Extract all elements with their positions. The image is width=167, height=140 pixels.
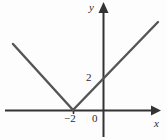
origin-label: 0 [92, 113, 98, 124]
y-axis-label: y [89, 2, 94, 13]
curve-right-branch [73, 22, 158, 110]
x-axis-arrowhead [151, 106, 161, 116]
y-axis-arrowhead [99, 2, 109, 13]
curve-left-branch [13, 44, 73, 110]
x-tick-label-neg-2: −2 [64, 113, 76, 124]
y-tick-label-2: 2 [86, 72, 92, 83]
x-axis-label: x [154, 118, 159, 129]
graph-canvas [0, 0, 167, 140]
absolute-value-graph-figure: y x −2 0 2 [0, 0, 167, 140]
